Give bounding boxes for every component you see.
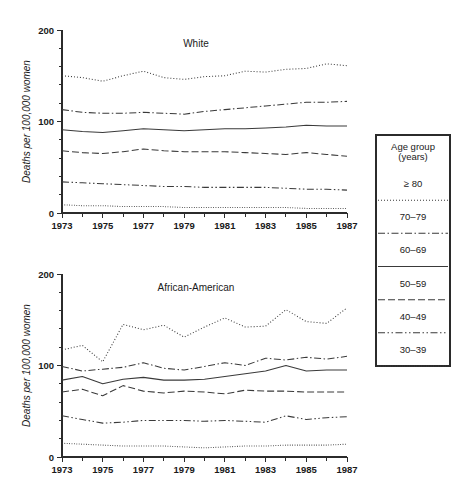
x-tick-label: 1977: [133, 464, 154, 475]
x-tick-label: 1981: [214, 464, 236, 475]
legend-item-label-0[interactable]: ≥ 80: [404, 178, 422, 189]
panel-title: White: [183, 38, 209, 49]
y-tick-label: 0: [49, 452, 54, 463]
figure-root: 010020019731975197719791981198319851987D…: [0, 0, 457, 500]
x-tick-label: 1983: [255, 220, 276, 231]
y-tick-label: 100: [38, 360, 54, 371]
x-tick-label: 1981: [214, 220, 236, 231]
x-tick-label: 1983: [255, 464, 276, 475]
x-tick-label: 1973: [51, 464, 72, 475]
x-tick-label: 1985: [296, 220, 318, 231]
legend-item-label-3[interactable]: 50–59: [400, 278, 426, 289]
panel-title: African-American: [158, 282, 235, 293]
figure-background: [0, 0, 457, 500]
x-tick-label: 1975: [92, 220, 114, 231]
y-tick-label: 200: [38, 25, 54, 36]
x-tick-label: 1979: [174, 220, 195, 231]
y-axis-title: Deaths per 100,000 women: [21, 60, 32, 183]
y-tick-label: 200: [38, 269, 54, 280]
x-tick-label: 1973: [51, 220, 72, 231]
y-tick-label: 100: [38, 116, 54, 127]
legend-item-label-5[interactable]: 30–39: [400, 344, 426, 355]
x-tick-label: 1979: [174, 464, 195, 475]
y-tick-label: 0: [49, 208, 54, 219]
legend-item-label-1[interactable]: 70–79: [400, 211, 426, 222]
x-tick-label: 1987: [336, 220, 357, 231]
x-tick-label: 1977: [133, 220, 154, 231]
x-tick-label: 1975: [92, 464, 114, 475]
legend-title-line2: (years): [398, 151, 428, 162]
legend-item-label-4[interactable]: 40–49: [400, 311, 426, 322]
x-tick-label: 1987: [336, 464, 357, 475]
y-axis-title: Deaths per 100,000 women: [21, 304, 32, 427]
legend-item-label-2[interactable]: 60–69: [400, 244, 426, 255]
x-tick-label: 1985: [296, 464, 318, 475]
